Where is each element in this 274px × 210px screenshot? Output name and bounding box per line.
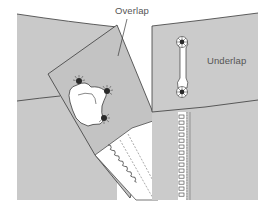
underlap-label: Underlap — [207, 55, 246, 66]
right-garment-panel-underlap — [152, 13, 258, 200]
snap-icon — [177, 87, 188, 98]
overlap-label: Overlap — [115, 5, 149, 16]
snap-icon — [177, 37, 188, 48]
zipper-overlap-diagram — [0, 0, 274, 210]
